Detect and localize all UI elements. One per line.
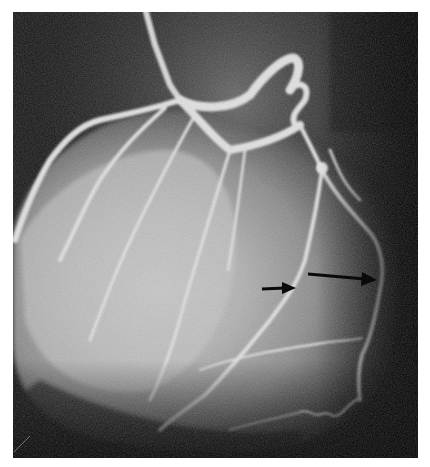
angiogram-graphic: [13, 12, 418, 458]
angiogram-image: [13, 12, 418, 458]
